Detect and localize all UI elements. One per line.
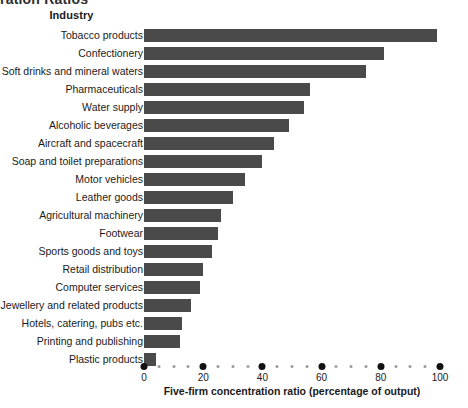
bar-category-label: Confectionery	[0, 47, 143, 60]
bar	[144, 101, 304, 114]
bar-row: Agricultural machinery	[0, 208, 468, 226]
x-axis-tick-label: 100	[432, 372, 449, 383]
bar-plot-area: Tobacco productsConfectionerySoft drinks…	[0, 28, 468, 370]
bar-track	[144, 299, 440, 312]
x-axis-major-tick	[141, 363, 148, 370]
bar	[144, 137, 274, 150]
bar-track	[144, 245, 440, 258]
bar-category-label: Footwear	[0, 227, 143, 240]
bar-track	[144, 317, 440, 330]
x-axis-tick-label: 20	[198, 372, 209, 383]
bar	[144, 209, 221, 222]
x-axis-minor-tick	[231, 365, 234, 368]
bar	[144, 173, 245, 186]
bar-category-label: Agricultural machinery	[0, 209, 143, 222]
bar-category-label: Retail distribution	[0, 263, 143, 276]
x-axis-minor-tick	[217, 365, 220, 368]
bar-track	[144, 101, 440, 114]
bar-category-label: Alcoholic beverages	[0, 119, 143, 132]
bar-category-label: Tobacco products	[0, 29, 143, 42]
bar	[144, 65, 366, 78]
bar	[144, 281, 200, 294]
bar	[144, 317, 182, 330]
industry-column-header: Industry	[0, 9, 143, 21]
bar-row: Confectionery	[0, 46, 468, 64]
bar-track	[144, 119, 440, 132]
bar-row: Alcoholic beverages	[0, 118, 468, 136]
bar-row: Retail distribution	[0, 262, 468, 280]
x-axis-tick-label: 40	[257, 372, 268, 383]
bar	[144, 245, 212, 258]
x-axis-tick-label: 80	[375, 372, 386, 383]
x-axis: 020406080100	[144, 363, 440, 375]
x-axis-major-tick	[377, 363, 384, 370]
bar-row: Printing and publishing	[0, 334, 468, 352]
x-axis-minor-tick	[246, 365, 249, 368]
x-axis-minor-tick	[276, 365, 279, 368]
bar-category-label: Printing and publishing	[0, 335, 143, 348]
bar-track	[144, 29, 440, 42]
x-axis-minor-tick	[409, 365, 412, 368]
bar-track	[144, 227, 440, 240]
bar-row: Water supply	[0, 100, 468, 118]
bar-track	[144, 209, 440, 222]
bar-track	[144, 263, 440, 276]
bar-row: Motor vehicles	[0, 172, 468, 190]
bar-category-label: Soft drinks and mineral waters	[0, 65, 143, 78]
x-axis-minor-tick	[291, 365, 294, 368]
bar-track	[144, 281, 440, 294]
bar	[144, 83, 310, 96]
x-axis-minor-tick	[157, 365, 160, 368]
bar-row: Tobacco products	[0, 28, 468, 46]
x-axis-minor-tick	[350, 365, 353, 368]
x-axis-tick-label: 0	[141, 372, 147, 383]
bar-row: Aircraft and spacecraft	[0, 136, 468, 154]
bar-category-label: Computer services	[0, 281, 143, 294]
bar-category-label: Leather goods	[0, 191, 143, 204]
bar-row: Jewellery and related products	[0, 298, 468, 316]
bar	[144, 227, 218, 240]
bar-row: Leather goods	[0, 190, 468, 208]
bar-chart: Industry Tobacco productsConfectionerySo…	[0, 0, 468, 408]
bar-track	[144, 335, 440, 348]
x-axis-major-tick	[200, 363, 207, 370]
bar-row: Computer services	[0, 280, 468, 298]
bar	[144, 299, 191, 312]
x-axis-major-tick	[259, 363, 266, 370]
bar-category-label: Motor vehicles	[0, 173, 143, 186]
bar-category-label: Pharmaceuticals	[0, 83, 143, 96]
bar-track	[144, 173, 440, 186]
x-axis-minor-tick	[394, 365, 397, 368]
bar-category-label: Sports goods and toys	[0, 245, 143, 258]
bar-track	[144, 83, 440, 96]
bar	[144, 263, 203, 276]
bar-row: Soft drinks and mineral waters	[0, 64, 468, 82]
x-axis-minor-tick	[424, 365, 427, 368]
bar-row: Footwear	[0, 226, 468, 244]
x-axis-tick-label: 60	[316, 372, 327, 383]
x-axis-minor-tick	[365, 365, 368, 368]
x-axis-label: Five-firm concentration ratio (percentag…	[144, 385, 440, 397]
bar	[144, 335, 180, 348]
bar-row: Pharmaceuticals	[0, 82, 468, 100]
bar-track	[144, 65, 440, 78]
x-axis-minor-tick	[305, 365, 308, 368]
x-axis-major-tick	[437, 363, 444, 370]
bar-category-label: Soap and toilet preparations	[0, 155, 143, 168]
bar-track	[144, 137, 440, 150]
bar	[144, 47, 384, 60]
x-axis-major-tick	[318, 363, 325, 370]
bar-category-label: Water supply	[0, 101, 143, 114]
bar	[144, 191, 233, 204]
bar-row: Soap and toilet preparations	[0, 154, 468, 172]
bar-row: Sports goods and toys	[0, 244, 468, 262]
bar	[144, 29, 437, 42]
bar-category-label: Hotels, catering, pubs etc.	[0, 317, 143, 330]
x-axis-minor-tick	[335, 365, 338, 368]
bar-category-label: Plastic products	[0, 353, 143, 366]
x-axis-minor-tick	[172, 365, 175, 368]
bar-track	[144, 191, 440, 204]
bar-track	[144, 47, 440, 60]
x-axis-minor-tick	[187, 365, 190, 368]
bar	[144, 119, 289, 132]
